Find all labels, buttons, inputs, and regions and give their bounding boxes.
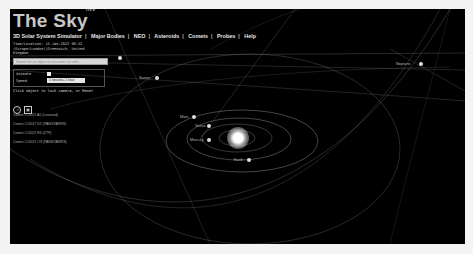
planet-neptune[interactable] (419, 62, 423, 66)
planet-mars[interactable] (192, 115, 196, 119)
sun[interactable] (227, 127, 249, 149)
planet-saturn[interactable] (155, 76, 159, 80)
app-logo[interactable]: The Skylive (13, 10, 96, 32)
planet-label-neptune[interactable]: Neptune (396, 62, 410, 66)
comet-item[interactable]: Comet C/2017 K2 (PANSTARRS) (13, 122, 67, 131)
main-nav: 3D Solar System Simulator| Major Bodies|… (13, 33, 259, 39)
planet-mercury[interactable] (207, 138, 211, 142)
nav-comets[interactable]: Comets (188, 33, 208, 39)
nav-separator: | (148, 33, 150, 39)
nav-asteroids[interactable]: Asteroids (154, 33, 179, 39)
comet-item[interactable]: Comet C/2021 A1 (Leonard) (13, 113, 67, 122)
planet-label-mercury[interactable]: Mercury (190, 138, 204, 142)
speed-select[interactable]: 1 second = 1 hour (47, 78, 85, 83)
comet-list: Comet C/2021 A1 (Leonard) Comet C/2017 K… (13, 113, 67, 149)
nav-simulator[interactable]: 3D Solar System Simulator (13, 33, 82, 39)
solar-system-canvas[interactable]: The Skylive 3D Solar System Simulator| M… (10, 9, 465, 244)
planet-label-earth[interactable]: Earth (234, 158, 243, 162)
object-search-input[interactable]: Search for an object to encounter for or… (13, 58, 108, 65)
planet-label-venus[interactable]: Venus (195, 124, 206, 128)
speed-label: Speed (16, 79, 27, 83)
nav-help[interactable]: Help (244, 33, 256, 39)
animate-label: Animate (16, 72, 31, 76)
animate-checkbox[interactable] (47, 72, 51, 76)
nav-separator: | (128, 33, 130, 39)
planet-label-mars[interactable]: Mars (180, 115, 188, 119)
nav-separator: | (85, 33, 87, 39)
planet-jupiter[interactable] (118, 56, 122, 60)
logo-text: The Sky (13, 10, 88, 31)
location-line: Kingdom (13, 51, 108, 56)
nav-separator: | (182, 33, 184, 39)
nav-separator: | (238, 33, 240, 39)
planet-label-saturn[interactable]: Saturn (139, 76, 150, 80)
time-location-info: Time/Location: 15-Jan-2022 06:52 (Europe… (13, 42, 108, 56)
planet-earth[interactable] (247, 158, 251, 162)
comet-item[interactable]: Comet C/2022 E3 (ZTF) (13, 131, 67, 140)
nav-major-bodies[interactable]: Major Bodies (91, 33, 125, 39)
nav-probes[interactable]: Probes (217, 33, 235, 39)
camera-hint: Click object to lock camera, or Reset (13, 89, 93, 93)
nav-separator: | (211, 33, 213, 39)
comet-item[interactable]: Comet C/2021 O3 (PANSTARRS) (13, 140, 67, 149)
planet-venus[interactable] (207, 124, 211, 128)
logo-badge: live (86, 9, 96, 12)
nav-neo[interactable]: NEO (134, 33, 146, 39)
